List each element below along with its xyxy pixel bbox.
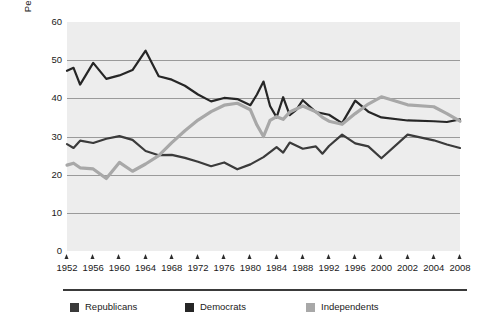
x-tick-mark bbox=[222, 254, 226, 259]
y-tick-label: 20 bbox=[40, 170, 62, 180]
x-tick-label: 1984 bbox=[266, 262, 287, 273]
legend-swatch-republicans bbox=[70, 303, 79, 312]
x-tick-label: 1960 bbox=[109, 262, 130, 273]
x-tick-label: 1952 bbox=[56, 262, 77, 273]
x-tick-mark bbox=[169, 254, 173, 259]
x-tick-mark bbox=[91, 254, 95, 259]
legend-label: Republicans bbox=[85, 302, 137, 312]
y-axis-title: Percentage of Americans bbox=[22, 0, 36, 83]
y-tick-label: 30 bbox=[40, 132, 62, 142]
legend-entry-republicans[interactable]: Republicans bbox=[70, 300, 137, 314]
x-tick-mark bbox=[300, 254, 304, 259]
chart-legend: RepublicansDemocratsIndependents bbox=[63, 300, 467, 316]
x-tick-mark bbox=[248, 254, 252, 259]
legend-label: Independents bbox=[321, 302, 379, 312]
y-axis-ticks: 0102030405060 bbox=[36, 0, 62, 330]
plot-lines bbox=[67, 22, 460, 251]
x-tick-mark bbox=[379, 254, 383, 259]
x-tick-mark bbox=[327, 254, 331, 259]
x-tick-label: 1988 bbox=[292, 262, 313, 273]
y-tick-label: 0 bbox=[40, 246, 62, 256]
y-tick-label: 60 bbox=[40, 17, 62, 27]
y-tick-label: 50 bbox=[40, 55, 62, 65]
x-tick-label: 1996 bbox=[345, 262, 366, 273]
x-tick-mark bbox=[458, 254, 462, 259]
legend-swatch-independents bbox=[306, 303, 315, 312]
legend-swatch-democrats bbox=[185, 303, 194, 312]
x-tick-mark bbox=[65, 254, 69, 259]
series-line-republicans bbox=[67, 135, 460, 170]
x-tick-label: 1956 bbox=[83, 262, 104, 273]
x-axis-ticks: 1952195619601964196819721976198019841988… bbox=[67, 251, 460, 281]
x-tick-mark bbox=[353, 254, 357, 259]
x-tick-label: 1980 bbox=[240, 262, 261, 273]
x-tick-label: 1972 bbox=[187, 262, 208, 273]
x-tick-label: 2002 bbox=[397, 262, 418, 273]
x-tick-label: 1968 bbox=[161, 262, 182, 273]
x-tick-mark bbox=[117, 254, 121, 259]
x-tick-label: 1976 bbox=[214, 262, 235, 273]
legend-separator-rule bbox=[63, 289, 467, 291]
x-tick-label: 2000 bbox=[371, 262, 392, 273]
legend-entry-independents[interactable]: Independents bbox=[306, 300, 379, 314]
x-tick-mark bbox=[431, 254, 435, 259]
x-tick-label: 1964 bbox=[135, 262, 156, 273]
plot-area bbox=[67, 22, 460, 251]
series-line-democrats bbox=[67, 51, 460, 124]
y-axis-title-label: Percentage of Americans bbox=[22, 0, 33, 83]
chart-figure: Percentage of Americans 0102030405060 19… bbox=[0, 0, 485, 330]
x-tick-label: 2008 bbox=[449, 262, 470, 273]
x-tick-label: 2004 bbox=[423, 262, 444, 273]
x-tick-mark bbox=[274, 254, 278, 259]
x-tick-mark bbox=[143, 254, 147, 259]
y-tick-label: 10 bbox=[40, 208, 62, 218]
x-tick-label: 1992 bbox=[318, 262, 339, 273]
x-tick-mark bbox=[196, 254, 200, 259]
y-tick-label: 40 bbox=[40, 93, 62, 103]
legend-entry-democrats[interactable]: Democrats bbox=[185, 300, 246, 314]
x-tick-mark bbox=[405, 254, 409, 259]
legend-label: Democrats bbox=[200, 302, 246, 312]
